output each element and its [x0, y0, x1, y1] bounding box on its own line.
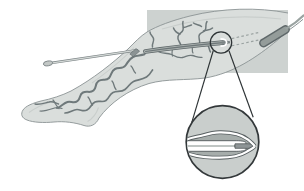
- leg-vein-diagram: [0, 0, 304, 191]
- iliac-vein-line: [287, 16, 304, 29]
- catheter-hub: [43, 60, 53, 66]
- magnified-view: [183, 132, 255, 158]
- illustration-canvas: [0, 0, 304, 191]
